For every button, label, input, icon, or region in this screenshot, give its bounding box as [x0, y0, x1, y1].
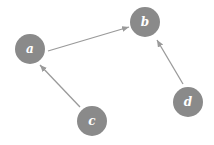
edges	[40, 27, 183, 107]
node-c[interactable]: c	[77, 106, 107, 136]
graph-canvas: a b c d	[0, 0, 214, 145]
node-label-c: c	[88, 114, 96, 128]
node-a[interactable]: a	[15, 34, 45, 64]
node-label-d: d	[184, 95, 193, 109]
edge-a-to-b	[48, 27, 129, 51]
edge-d-to-b	[157, 40, 183, 84]
node-d[interactable]: d	[173, 87, 203, 117]
node-label-b: b	[141, 15, 149, 29]
node-label-a: a	[26, 42, 34, 56]
node-b[interactable]: b	[130, 7, 160, 37]
edge-c-to-a	[40, 65, 80, 107]
